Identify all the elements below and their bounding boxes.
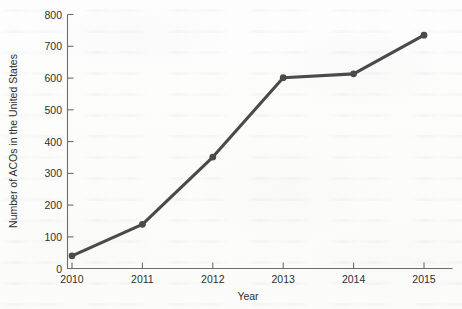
data-point: 2012: 351 [209, 154, 216, 161]
x-axis-title: Year [237, 290, 259, 302]
series-markers: 2010: 402011: 1392012: 3512013: 6012014:… [69, 32, 428, 259]
data-point: 2010: 40 [69, 252, 76, 259]
y-tick-label: 400 [44, 136, 62, 148]
y-tick-label: 500 [44, 104, 62, 116]
y-tick-label: 700 [44, 40, 62, 52]
x-tick-label: 2011 [131, 273, 154, 285]
data-point: 2011: 139 [139, 221, 146, 228]
y-tick-label: 200 [44, 199, 62, 211]
x-tick-label: 2014 [342, 273, 366, 285]
y-axis-tick-labels: 800 700 600 500 400 300 200 100 0 [44, 9, 62, 275]
y-axis-ticks [68, 15, 74, 269]
y-axis-title: Number of ACOs in the United States [7, 54, 19, 228]
y-tick-label: 100 [44, 231, 62, 243]
line-chart-plot: 800 700 600 500 400 300 200 100 0 2010 2… [0, 0, 462, 309]
y-tick-label: 800 [44, 9, 62, 21]
data-point: 2013: 601 [280, 74, 287, 81]
x-tick-label: 2012 [201, 273, 225, 285]
y-tick-label: 600 [44, 72, 62, 84]
x-tick-label: 2015 [412, 273, 436, 285]
x-tick-label: 2013 [272, 273, 296, 285]
data-point: 2015: 735 [421, 32, 428, 39]
chart-figure: 800 700 600 500 400 300 200 100 0 2010 2… [0, 0, 462, 309]
series-line [72, 35, 424, 256]
data-point: 2014: 613 [350, 70, 357, 77]
x-axis-ticks [72, 263, 424, 269]
x-tick-label: 2010 [60, 273, 84, 285]
y-tick-label: 300 [44, 167, 62, 179]
x-axis-tick-labels: 2010 2011 2012 2013 2014 2015 [60, 273, 436, 285]
